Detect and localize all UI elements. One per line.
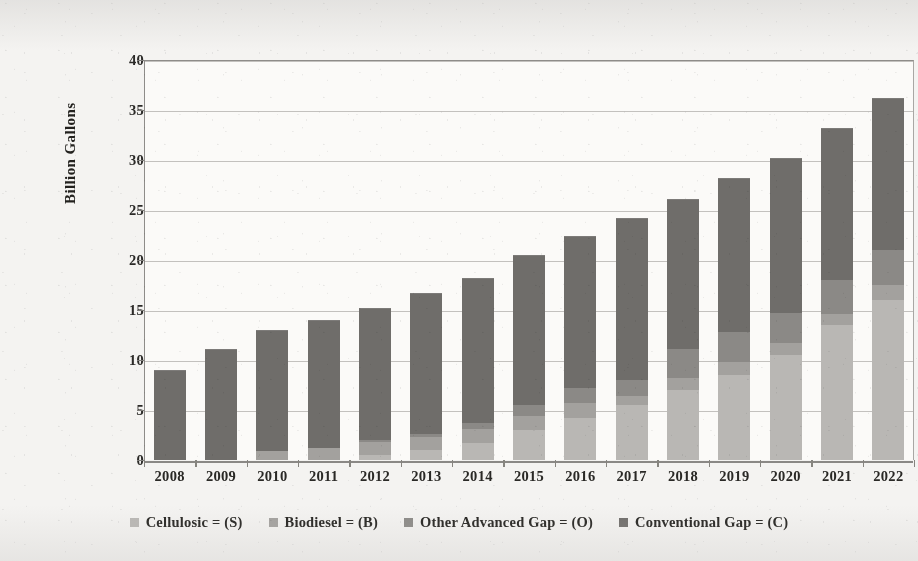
x-tick-label-2019: 2019	[719, 468, 749, 485]
bar-2021	[821, 128, 853, 460]
bar-segment-2022-B	[872, 285, 904, 300]
y-axis: 0510152025303540	[92, 16, 144, 561]
gridline-0	[145, 461, 913, 463]
bar-segment-2014-S	[462, 443, 494, 461]
x-tick-label-2015: 2015	[514, 468, 544, 485]
y-tick-mark-25	[137, 210, 144, 211]
bar-segment-2012-S	[359, 455, 391, 460]
x-tick-mark-2014	[452, 460, 453, 467]
bar-2017	[616, 218, 648, 460]
y-tick-mark-40	[137, 60, 144, 61]
legend-swatch-icon-s	[130, 518, 139, 527]
y-axis-title: Billion Gallons	[62, 103, 79, 204]
bar-segment-2020-B	[770, 343, 802, 355]
bar-segment-2020-C	[770, 158, 802, 313]
x-tick-label-2010: 2010	[257, 468, 287, 485]
x-tick-mark-2013	[401, 460, 402, 467]
legend-label-b: Biodiesel = (B)	[285, 514, 378, 531]
bar-segment-2019-C	[718, 178, 750, 332]
x-tick-label-2018: 2018	[668, 468, 698, 485]
bar-segment-2018-C	[667, 199, 699, 349]
legend-item-o[interactable]: Other Advanced Gap = (O)	[404, 514, 593, 531]
bar-segment-2019-S	[718, 375, 750, 460]
x-tick-mark-2009	[195, 460, 196, 467]
bar-segment-2021-S	[821, 325, 853, 460]
bar-segment-2016-C	[564, 236, 596, 388]
x-tick-mark-end	[914, 460, 915, 467]
bar-segment-2017-S	[616, 405, 648, 460]
x-tick-label-2009: 2009	[206, 468, 236, 485]
x-tick-mark-2008	[144, 460, 145, 467]
bar-segment-2022-S	[872, 300, 904, 460]
bar-segment-2020-S	[770, 355, 802, 460]
x-tick-mark-2011	[298, 460, 299, 467]
legend-item-c[interactable]: Conventional Gap = (C)	[619, 514, 788, 531]
bar-segment-2016-S	[564, 418, 596, 461]
x-tick-label-2022: 2022	[873, 468, 903, 485]
x-tick-label-2020: 2020	[771, 468, 801, 485]
bar-segment-2021-C	[821, 128, 853, 280]
bar-2014	[462, 278, 494, 460]
legend-swatch-icon-c	[619, 518, 628, 527]
x-tick-mark-2016	[555, 460, 556, 467]
bar-segment-2008-C	[154, 370, 186, 460]
x-tick-label-2016: 2016	[565, 468, 595, 485]
legend-label-c: Conventional Gap = (C)	[635, 514, 788, 531]
bar-2008	[154, 370, 186, 460]
x-tick-mark-2010	[247, 460, 248, 467]
bar-segment-2021-B	[821, 314, 853, 325]
bar-segment-2011-C	[308, 320, 340, 448]
x-tick-label-2008: 2008	[155, 468, 185, 485]
bar-segment-2022-O	[872, 250, 904, 285]
bar-segment-2015-S	[513, 430, 545, 460]
legend-label-s: Cellulosic = (S)	[146, 514, 243, 531]
x-tick-mark-2012	[349, 460, 350, 467]
legend-label-o: Other Advanced Gap = (O)	[420, 514, 593, 531]
legend-swatch-icon-b	[269, 518, 278, 527]
bar-segment-2017-C	[616, 218, 648, 380]
stacked-bar-chart: Billion Gallons 0510152025303540 2008200…	[40, 16, 878, 545]
bar-segment-2013-B	[410, 437, 442, 451]
bar-2016	[564, 236, 596, 460]
bar-segment-2017-B	[616, 396, 648, 405]
x-tick-label-2011: 2011	[309, 468, 338, 485]
bar-segment-2018-O	[667, 349, 699, 378]
y-tick-mark-20	[137, 260, 144, 261]
bar-2011	[308, 320, 340, 460]
x-tick-mark-2017	[606, 460, 607, 467]
bar-segment-2015-C	[513, 255, 545, 405]
x-tick-mark-2019	[709, 460, 710, 467]
legend-item-s[interactable]: Cellulosic = (S)	[130, 514, 243, 531]
bar-segment-2022-C	[872, 98, 904, 250]
x-tick-label-2013: 2013	[411, 468, 441, 485]
legend-item-b[interactable]: Biodiesel = (B)	[269, 514, 378, 531]
bar-segment-2016-O	[564, 388, 596, 403]
y-tick-mark-30	[137, 160, 144, 161]
chart-legend: Cellulosic = (S)Biodiesel = (B)Other Adv…	[40, 514, 878, 531]
bar-segment-2017-O	[616, 380, 648, 396]
bar-segment-2018-S	[667, 390, 699, 460]
x-tick-mark-2018	[657, 460, 658, 467]
bar-2020	[770, 158, 802, 460]
x-tick-label-2021: 2021	[822, 468, 852, 485]
bar-segment-2019-B	[718, 362, 750, 375]
bar-segment-2009-C	[205, 349, 237, 460]
y-tick-mark-15	[137, 310, 144, 311]
x-tick-mark-2020	[760, 460, 761, 467]
bar-segment-2010-B	[256, 451, 288, 461]
bar-2012	[359, 308, 391, 460]
y-tick-mark-10	[137, 360, 144, 361]
legend-swatch-icon-o	[404, 518, 413, 527]
bar-segment-2012-C	[359, 308, 391, 440]
y-tick-mark-0	[137, 460, 144, 461]
x-tick-label-2012: 2012	[360, 468, 390, 485]
bar-segment-2011-B	[308, 448, 340, 460]
bar-segment-2019-O	[718, 332, 750, 362]
x-tick-mark-2021	[811, 460, 812, 467]
bar-series-layer	[144, 60, 914, 460]
bar-segment-2016-B	[564, 403, 596, 418]
bar-segment-2014-C	[462, 278, 494, 423]
bar-segment-2012-B	[359, 442, 391, 455]
bar-segment-2014-B	[462, 429, 494, 443]
bar-2018	[667, 199, 699, 460]
